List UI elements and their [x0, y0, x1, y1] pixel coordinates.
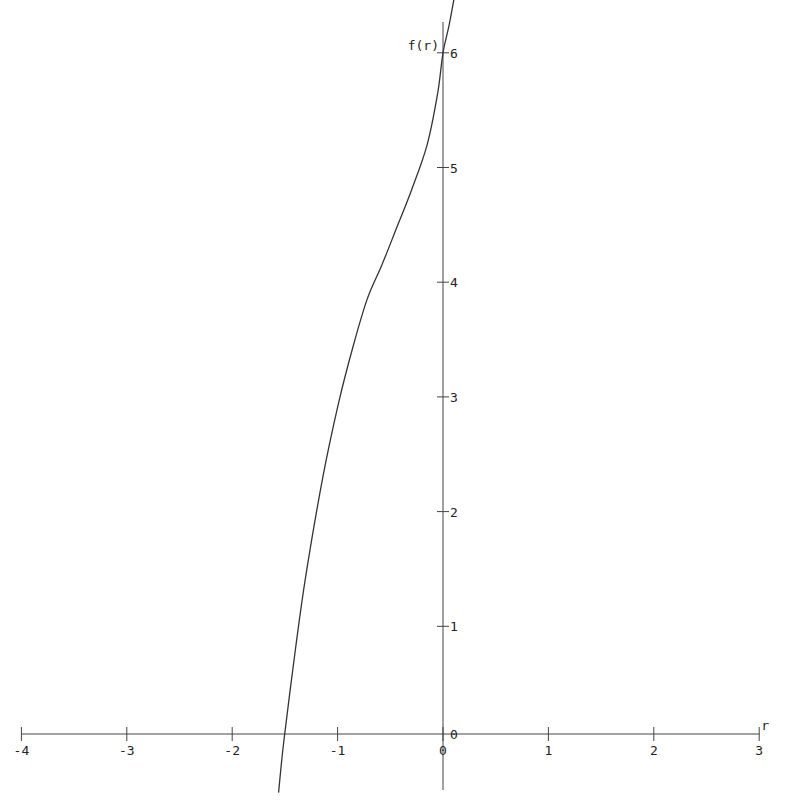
tick-labels: -4-3-2-101230123456 [14, 46, 764, 758]
y-tick-label: 4 [450, 275, 458, 290]
x-axis-label: r [761, 718, 769, 733]
x-tick-label: -2 [224, 743, 240, 758]
y-tick-label: 2 [450, 505, 458, 520]
axes [21, 22, 759, 790]
y-tick-label: 3 [450, 390, 458, 405]
y-axis-label: f(r) [408, 38, 439, 53]
x-tick-label: 3 [755, 743, 763, 758]
x-tick-label: -4 [14, 743, 30, 758]
x-tick-label: 2 [650, 743, 658, 758]
y-tick-label: 5 [450, 161, 458, 176]
function-plot: -4-3-2-101230123456 r f(r) [0, 0, 798, 812]
function-curve [279, 0, 456, 793]
x-tick-label: -3 [119, 743, 135, 758]
x-tick-label: 0 [439, 743, 447, 758]
y-tick-label: 6 [450, 46, 458, 61]
y-tick-label: 0 [450, 727, 458, 742]
x-tick-label: -1 [330, 743, 346, 758]
ticks [21, 53, 759, 741]
y-tick-label: 1 [450, 619, 458, 634]
x-tick-label: 1 [544, 743, 552, 758]
